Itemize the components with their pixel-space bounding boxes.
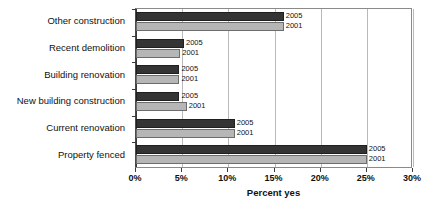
- bar-2001-5: [136, 155, 367, 164]
- category-label-0: Other construction: [47, 16, 125, 26]
- bar-group: 20052001: [136, 90, 411, 117]
- x-tick-label-5: 5%: [161, 173, 201, 183]
- x-tick-0: [135, 168, 136, 172]
- x-tick-30: [412, 168, 413, 172]
- x-axis-title: Percent yes: [135, 187, 412, 198]
- bar-group: 20052001: [136, 37, 411, 64]
- x-tick-20: [320, 168, 321, 172]
- bar-value-label-2001: 2001: [286, 22, 303, 30]
- bar-group: 20052001: [136, 10, 411, 37]
- category-label-4: Current renovation: [46, 123, 125, 133]
- bar-2001-0: [136, 22, 284, 31]
- bar-value-label-2005: 2005: [181, 65, 198, 73]
- plot-area: 2005200120052001200520012005200120052001…: [135, 8, 412, 168]
- bar-2001-1: [136, 49, 180, 58]
- x-tick-25: [366, 168, 367, 172]
- bar-value-label-2005: 2005: [186, 39, 203, 47]
- bar-value-label-2005: 2005: [369, 145, 386, 153]
- bar-value-label-2001: 2001: [369, 155, 386, 163]
- bar-value-label-2001: 2001: [181, 75, 198, 83]
- gridline-30: [413, 9, 414, 167]
- x-tick-label-20: 20%: [300, 173, 340, 183]
- horizontal-bar-chart: Other constructionRecent demolitionBuild…: [0, 0, 430, 209]
- x-tick-label-10: 10%: [207, 173, 247, 183]
- bar-2005-2: [136, 65, 179, 74]
- bar-2005-3: [136, 92, 179, 101]
- x-tick-label-0: 0%: [115, 173, 155, 183]
- bar-2001-4: [136, 129, 235, 138]
- x-tick-15: [274, 168, 275, 172]
- bar-value-label-2005: 2005: [181, 92, 198, 100]
- category-label-3: New building construction: [17, 96, 125, 106]
- bar-2005-5: [136, 145, 367, 154]
- x-tick-label-30: 30%: [392, 173, 430, 183]
- bar-value-label-2001: 2001: [189, 102, 206, 110]
- bar-2005-4: [136, 119, 235, 128]
- bar-group: 20052001: [136, 63, 411, 90]
- bar-2005-1: [136, 39, 184, 48]
- bar-group: 20052001: [136, 117, 411, 144]
- bar-2005-0: [136, 12, 284, 21]
- category-axis-labels: Other constructionRecent demolitionBuild…: [0, 8, 131, 168]
- category-label-5: Property fenced: [58, 150, 125, 160]
- x-tick-5: [181, 168, 182, 172]
- category-label-1: Recent demolition: [49, 43, 125, 53]
- bar-2001-2: [136, 75, 179, 84]
- x-tick-label-15: 15%: [254, 173, 294, 183]
- bar-value-label-2005: 2005: [237, 119, 254, 127]
- category-label-2: Building renovation: [44, 70, 125, 80]
- bar-2001-3: [136, 102, 187, 111]
- bar-value-label-2005: 2005: [286, 12, 303, 20]
- x-tick-10: [227, 168, 228, 172]
- bar-group: 20052001: [136, 143, 411, 170]
- x-tick-label-25: 25%: [346, 173, 386, 183]
- bar-value-label-2001: 2001: [182, 49, 199, 57]
- bar-value-label-2001: 2001: [237, 129, 254, 137]
